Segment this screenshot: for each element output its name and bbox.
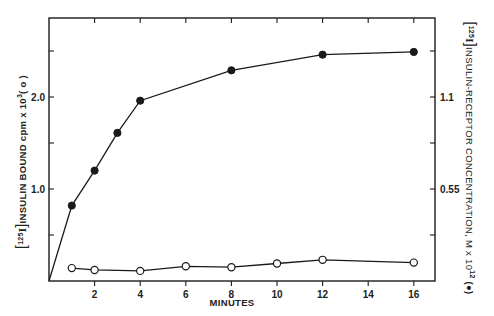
filled-circle-marker — [91, 167, 98, 174]
open-circle-marker — [68, 265, 75, 272]
y-axis-left-title: [125I]INSULIN BOUND cpm x 103( o ) — [13, 75, 29, 249]
y-tick-label: 2.0 — [31, 92, 45, 103]
series-line — [49, 52, 414, 281]
y-right-tick-label: 0.55 — [440, 184, 460, 195]
y-right-title-text: [125I]INSULIN-RECEPTOR CONCENTRATION, M … — [463, 21, 479, 294]
open-circle-marker — [91, 266, 98, 273]
x-axis-title: MINUTES — [210, 297, 255, 308]
filled-circle-marker — [68, 202, 75, 209]
open-circle-marker — [182, 263, 189, 270]
y-left-title-text: [125I]INSULIN BOUND cpm x 103( o ) — [13, 75, 29, 249]
open-circle-marker — [410, 259, 417, 266]
y-axis-left: 1.02.0 — [31, 51, 54, 235]
x-tick-label: 10 — [271, 289, 283, 300]
y-tick-label: 1.0 — [31, 184, 45, 195]
filled-circle-marker — [114, 129, 121, 136]
open-circle-marker — [319, 256, 326, 263]
chart-canvas: 246810121416MINUTES1.02.00.551.1[125I]IN… — [0, 0, 494, 316]
x-tick-label: 14 — [363, 289, 375, 300]
filled-circle-marker — [319, 51, 326, 58]
filled-circle-marker — [228, 67, 235, 74]
filled-circle-marker — [410, 48, 417, 55]
x-tick-label: 4 — [137, 289, 143, 300]
open-circle-marker — [137, 267, 144, 274]
x-tick-label: 6 — [183, 289, 189, 300]
x-tick-label: 16 — [408, 289, 420, 300]
open-circle-marker — [273, 260, 280, 267]
filled-circle-marker — [137, 97, 144, 104]
open-circle-marker — [228, 264, 235, 271]
y-right-tick-label: 1.1 — [440, 92, 454, 103]
x-tick-label: 2 — [92, 289, 98, 300]
x-tick-label: 12 — [317, 289, 329, 300]
y-axis-right-title: [125I]INSULIN-RECEPTOR CONCENTRATION, M … — [463, 21, 479, 294]
series-line — [72, 260, 414, 271]
series-insulin-bound — [68, 256, 417, 274]
x-axis: 246810121416MINUTES — [92, 18, 420, 308]
series-receptor-concentration — [49, 48, 417, 281]
